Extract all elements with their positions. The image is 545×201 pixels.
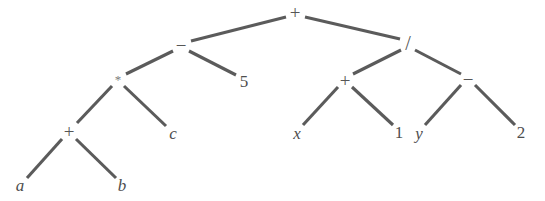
tree-node-one: 1: [395, 124, 404, 141]
tree-edge: [189, 51, 236, 75]
tree-edge: [124, 86, 166, 126]
tree-edge: [415, 50, 461, 74]
tree-node-root-plus: +: [290, 3, 301, 22]
tree-node-five: 5: [240, 73, 249, 90]
tree-node-plus-left: +: [64, 122, 75, 141]
tree-node-minus-left: −: [176, 36, 187, 55]
expression-tree-figure: +−/*5+−+cx1y2ab: [0, 0, 545, 201]
tree-edge: [126, 51, 173, 74]
tree-edge: [76, 139, 116, 178]
tree-edge: [353, 50, 401, 74]
tree-edge: [303, 87, 338, 125]
tree-edge: [305, 17, 400, 39]
tree-edge: [27, 139, 62, 178]
tree-edges-canvas: [0, 0, 545, 201]
tree-node-plus-right: +: [340, 71, 351, 90]
tree-edge: [191, 17, 286, 41]
tree-node-var-c: c: [169, 125, 177, 142]
edges-group: [27, 17, 515, 178]
tree-edge: [352, 87, 393, 125]
tree-node-minus-right: −: [463, 70, 474, 89]
tree-node-star: *: [115, 73, 122, 86]
tree-node-two: 2: [517, 124, 526, 141]
tree-node-var-y: y: [415, 125, 423, 142]
tree-node-slash: /: [405, 33, 411, 53]
tree-edge: [475, 85, 515, 125]
tree-edge: [77, 86, 112, 123]
tree-node-var-a: a: [16, 177, 25, 194]
tree-edge: [425, 85, 461, 125]
tree-node-var-x: x: [293, 125, 301, 142]
tree-node-var-b: b: [118, 177, 127, 194]
